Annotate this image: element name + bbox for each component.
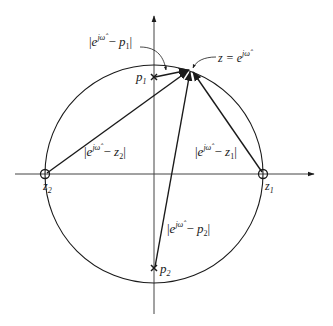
label-minus: − — [100, 144, 114, 159]
point-z-text: z = e — [218, 51, 242, 65]
point-z-sup: jω̂ — [242, 49, 250, 58]
label-minus: − — [211, 144, 225, 159]
callout-p1-vector — [140, 47, 166, 70]
z2-sub: 2 — [48, 186, 52, 195]
label-minus: − — [105, 34, 119, 49]
abs-bar-right: | — [123, 144, 126, 159]
label-p1: p1 — [136, 70, 147, 86]
label-vector-z2: |ejω̂ − z2| — [84, 144, 126, 161]
abs-bar-right: | — [234, 144, 237, 159]
callout-point-z — [193, 57, 216, 68]
label-minus: − — [183, 221, 197, 236]
label-p2: p2 — [160, 262, 171, 278]
label-z2: z2 — [43, 180, 52, 195]
label-vector-p1: |ejω̂ − p1| — [89, 34, 132, 51]
abs-bar-right: | — [130, 34, 133, 49]
p1-sub: 1 — [143, 77, 147, 86]
label-point-z: z = ejω̂ — [218, 50, 250, 64]
abs-bar-right: | — [208, 221, 211, 236]
label-vector-p2: |ejω̂ − p2| — [167, 221, 210, 238]
z1-sub: 1 — [270, 186, 274, 195]
label-vector-z1: |ejω̂ − z1| — [195, 144, 237, 161]
label-z1: z1 — [265, 180, 274, 195]
p2-sub: 2 — [167, 269, 171, 278]
